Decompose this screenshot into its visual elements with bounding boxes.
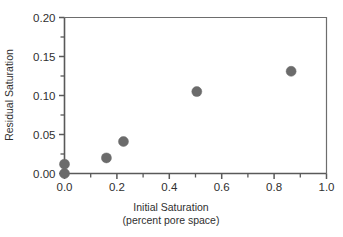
data-point-marker [286, 66, 296, 76]
data-point-marker [60, 169, 70, 179]
x-tick-label: 0.6 [214, 181, 230, 193]
y-axis-title: Residual Saturation [3, 49, 15, 141]
y-tick-label: 0.00 [33, 168, 55, 180]
y-tick-label: 0.05 [33, 129, 55, 141]
data-point-marker [192, 87, 202, 97]
x-axis-title-line1: Initial Saturation [133, 201, 208, 213]
scatter-chart-figure: 0.00.20.40.60.81.0 0.000.050.100.150.20 … [0, 0, 343, 237]
x-tick-label: 0.0 [57, 181, 73, 193]
x-tick-label: 0.2 [109, 181, 125, 193]
chart-canvas: 0.00.20.40.60.81.0 0.000.050.100.150.20 … [0, 0, 343, 237]
x-tick-label: 1.0 [319, 181, 335, 193]
x-tick-label: 0.8 [266, 181, 282, 193]
y-tick-label: 0.15 [33, 51, 55, 63]
data-point-marker [118, 137, 128, 147]
data-point-marker [60, 159, 70, 169]
data-point-marker [101, 153, 111, 163]
x-tick-label: 0.4 [161, 181, 178, 193]
y-tick-label: 0.10 [33, 90, 55, 102]
y-tick-label: 0.20 [33, 12, 55, 24]
x-axis-title-line2: (percent pore space) [123, 214, 220, 226]
